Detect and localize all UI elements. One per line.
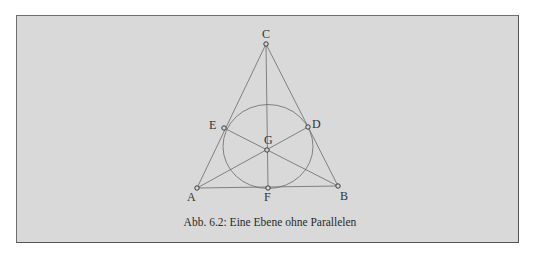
label-D: D [312, 117, 321, 131]
label-C: C [262, 27, 270, 41]
line-BC [266, 44, 338, 186]
line-CA [197, 44, 266, 188]
label-A: A [187, 190, 196, 204]
point-E [222, 126, 226, 130]
point-D [306, 125, 310, 129]
label-B: B [340, 189, 348, 203]
point-B [336, 184, 340, 188]
point-G [265, 148, 269, 152]
line-AD [197, 127, 308, 188]
label-F: F [264, 190, 271, 204]
label-G: G [264, 133, 273, 147]
line-CF [266, 44, 268, 188]
point-C [264, 42, 268, 46]
figure-caption: Abb. 6.2: Eine Ebene ohne Parallelen [184, 216, 357, 228]
label-E: E [209, 118, 216, 132]
fano-plane-diagram: A B C D E F G Abb. 6.2: Eine Ebene ohne … [0, 0, 547, 259]
line-BE [224, 128, 338, 186]
